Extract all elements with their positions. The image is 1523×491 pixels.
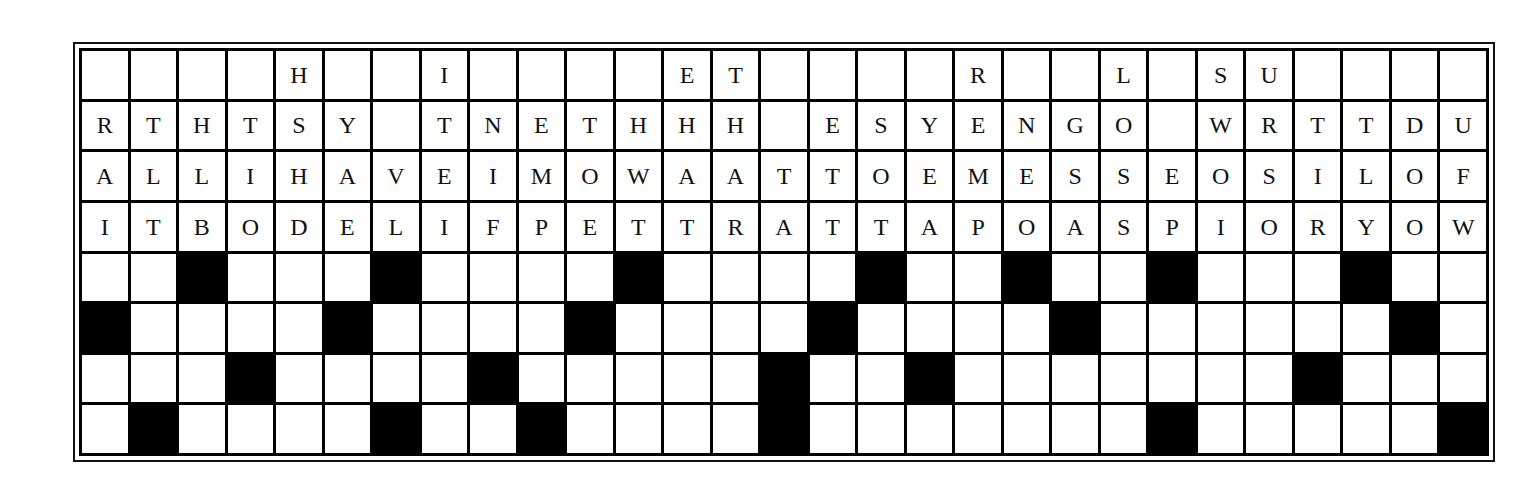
answer-square[interactable] (1440, 254, 1486, 302)
answer-square[interactable] (1198, 254, 1244, 302)
answer-square[interactable] (422, 355, 468, 403)
answer-square[interactable] (228, 254, 274, 302)
answer-square[interactable] (82, 405, 128, 453)
answer-square[interactable] (1343, 405, 1389, 453)
answer-square[interactable] (276, 405, 322, 453)
letter-tile (179, 51, 225, 99)
answer-square[interactable] (470, 254, 516, 302)
letter-tile: I (1198, 203, 1244, 251)
answer-square[interactable] (955, 355, 1001, 403)
answer-square[interactable] (470, 304, 516, 352)
answer-square[interactable] (761, 304, 807, 352)
answer-square[interactable] (1343, 304, 1389, 352)
answer-square[interactable] (567, 405, 613, 453)
answer-square[interactable] (1198, 355, 1244, 403)
answer-square[interactable] (519, 304, 565, 352)
answer-square[interactable] (82, 355, 128, 403)
answer-square[interactable] (907, 405, 953, 453)
answer-square[interactable] (1246, 254, 1292, 302)
answer-square[interactable] (519, 254, 565, 302)
answer-square[interactable] (1101, 355, 1147, 403)
answer-square[interactable] (664, 355, 710, 403)
answer-square[interactable] (1246, 355, 1292, 403)
answer-square[interactable] (810, 254, 856, 302)
answer-square[interactable] (1101, 405, 1147, 453)
answer-square[interactable] (1343, 355, 1389, 403)
answer-square[interactable] (1295, 254, 1341, 302)
answer-square[interactable] (567, 355, 613, 403)
answer-square[interactable] (713, 304, 759, 352)
answer-square[interactable] (179, 304, 225, 352)
answer-square[interactable] (1295, 304, 1341, 352)
answer-square[interactable] (1101, 304, 1147, 352)
answer-square[interactable] (373, 355, 419, 403)
answer-square[interactable] (810, 355, 856, 403)
answer-square[interactable] (664, 254, 710, 302)
answer-square[interactable] (616, 355, 662, 403)
answer-square[interactable] (1052, 405, 1098, 453)
answer-square[interactable] (1004, 304, 1050, 352)
answer-square[interactable] (616, 304, 662, 352)
answer-square[interactable] (955, 304, 1001, 352)
answer-square[interactable] (325, 254, 371, 302)
answer-square[interactable] (470, 405, 516, 453)
answer-square[interactable] (1052, 254, 1098, 302)
answer-square[interactable] (858, 355, 904, 403)
answer-square[interactable] (1392, 254, 1438, 302)
answer-square[interactable] (1004, 355, 1050, 403)
letter-tile: P (1149, 203, 1195, 251)
answer-square[interactable] (1440, 304, 1486, 352)
answer-square[interactable] (325, 355, 371, 403)
answer-square[interactable] (519, 355, 565, 403)
answer-square[interactable] (131, 355, 177, 403)
answer-square[interactable] (1149, 355, 1195, 403)
answer-square[interactable] (131, 304, 177, 352)
answer-square[interactable] (713, 254, 759, 302)
answer-square[interactable] (1246, 304, 1292, 352)
answer-square[interactable] (422, 304, 468, 352)
answer-square[interactable] (907, 304, 953, 352)
answer-square[interactable] (1101, 254, 1147, 302)
answer-square[interactable] (1198, 304, 1244, 352)
letter-tile: I (422, 51, 468, 99)
answer-square[interactable] (1295, 405, 1341, 453)
answer-square[interactable] (858, 405, 904, 453)
answer-square[interactable] (422, 254, 468, 302)
answer-square[interactable] (276, 254, 322, 302)
answer-square[interactable] (228, 405, 274, 453)
answer-square[interactable] (761, 254, 807, 302)
answer-square[interactable] (567, 254, 613, 302)
answer-square[interactable] (276, 355, 322, 403)
letter-tile: L (1343, 152, 1389, 200)
answer-square[interactable] (1392, 405, 1438, 453)
answer-square[interactable] (664, 405, 710, 453)
answer-square[interactable] (373, 304, 419, 352)
answer-square[interactable] (179, 405, 225, 453)
black-square (373, 254, 419, 302)
answer-square[interactable] (713, 355, 759, 403)
answer-square[interactable] (228, 304, 274, 352)
answer-square[interactable] (1198, 405, 1244, 453)
answer-square[interactable] (955, 254, 1001, 302)
answer-square[interactable] (1004, 405, 1050, 453)
letter-tile (616, 51, 662, 99)
answer-square[interactable] (179, 355, 225, 403)
answer-square[interactable] (82, 254, 128, 302)
answer-square[interactable] (422, 405, 468, 453)
answer-square[interactable] (907, 254, 953, 302)
answer-square[interactable] (616, 405, 662, 453)
answer-square[interactable] (325, 405, 371, 453)
answer-square[interactable] (955, 405, 1001, 453)
answer-square[interactable] (664, 304, 710, 352)
answer-square[interactable] (810, 405, 856, 453)
answer-square[interactable] (713, 405, 759, 453)
answer-square[interactable] (1052, 355, 1098, 403)
answer-square[interactable] (1246, 405, 1292, 453)
letter-tile (1440, 51, 1486, 99)
answer-square[interactable] (276, 304, 322, 352)
answer-square[interactable] (1392, 355, 1438, 403)
answer-square[interactable] (1149, 304, 1195, 352)
answer-square[interactable] (1440, 355, 1486, 403)
answer-square[interactable] (858, 304, 904, 352)
answer-square[interactable] (131, 254, 177, 302)
